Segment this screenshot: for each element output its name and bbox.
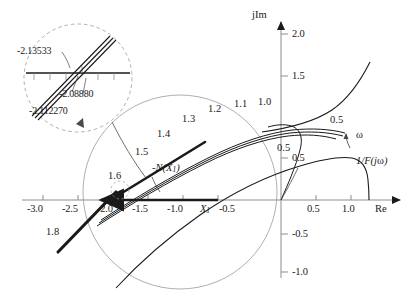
real-axis-label: Re bbox=[375, 203, 387, 214]
parameter-marker-1.2: 1.2 bbox=[208, 103, 221, 114]
x-tick-label--0.5: -0.5 bbox=[219, 203, 235, 214]
transfer-function-label: 1/F(jω) bbox=[356, 155, 387, 166]
y-tick-label--1.0: -1.0 bbox=[292, 266, 308, 277]
y-tick-label-2.0: 2.0 bbox=[292, 28, 305, 39]
y-axis-ticks bbox=[281, 34, 288, 272]
frequency-marker-inner-0.5: 0.5 bbox=[277, 142, 290, 153]
parameter-marker-1.5: 1.5 bbox=[135, 146, 148, 157]
transfer-function-head: 1/F(j bbox=[356, 155, 377, 166]
imaginary-axis-label: jIm bbox=[252, 9, 267, 20]
reference-circle bbox=[83, 95, 277, 289]
frequency-marker-leader bbox=[281, 168, 298, 200]
x-variable-label: X1 bbox=[200, 203, 210, 215]
omega-label: ω bbox=[356, 129, 363, 140]
parameter-marker-1.1: 1.1 bbox=[234, 98, 247, 109]
inset-value--2.112270: -2.112270 bbox=[29, 105, 68, 116]
x-tick-label--1.0: -1.0 bbox=[167, 203, 183, 214]
describing-function-label: -N(X1) bbox=[152, 162, 180, 174]
omega-direction-arrow bbox=[346, 134, 350, 148]
x-tick-label--3.0: -3.0 bbox=[27, 203, 43, 214]
y-tick-label--0.5: -0.5 bbox=[292, 228, 308, 239]
x-tick-label--2.5: -2.5 bbox=[62, 203, 78, 214]
plot-vector-layer bbox=[0, 0, 411, 291]
y-tick-label-1.5: 1.5 bbox=[292, 70, 305, 81]
parameter-marker-1.4: 1.4 bbox=[157, 128, 170, 139]
y-tick-label-0.5: 0.5 bbox=[292, 152, 305, 163]
upper-rising-branch bbox=[262, 62, 370, 132]
parameter-marker-1.3: 1.3 bbox=[182, 113, 195, 124]
describing-function-head: -N(X bbox=[152, 162, 172, 173]
transfer-function-curve bbox=[116, 157, 369, 288]
x-tick-label-1.0: 1.0 bbox=[342, 203, 355, 214]
parameter-marker-1.8: 1.8 bbox=[46, 226, 59, 237]
inset-value--2.13533: -2.13533 bbox=[17, 45, 51, 56]
x-tick-label--2.0: -2.0 bbox=[97, 203, 113, 214]
transfer-function-omega: ω bbox=[377, 155, 384, 166]
x-tick-label--1.5: -1.5 bbox=[132, 203, 148, 214]
parameter-marker-1.0: 1.0 bbox=[258, 96, 271, 107]
frequency-marker-outer-0.5: 0.5 bbox=[330, 114, 343, 125]
parameter-marker-1.6: 1.6 bbox=[108, 170, 121, 181]
transfer-function-tail: ) bbox=[384, 155, 388, 166]
x-variable-subscript: 1 bbox=[206, 206, 210, 215]
describing-function-tail: ) bbox=[176, 162, 180, 173]
inset-value--2.08880: -2.08880 bbox=[59, 88, 93, 99]
x-tick-label-0.5: 0.5 bbox=[307, 203, 320, 214]
figure-canvas: -3.0 -2.5 -2.0 -1.5 -1.0 -0.5 0.5 1.0 X1… bbox=[0, 0, 411, 291]
